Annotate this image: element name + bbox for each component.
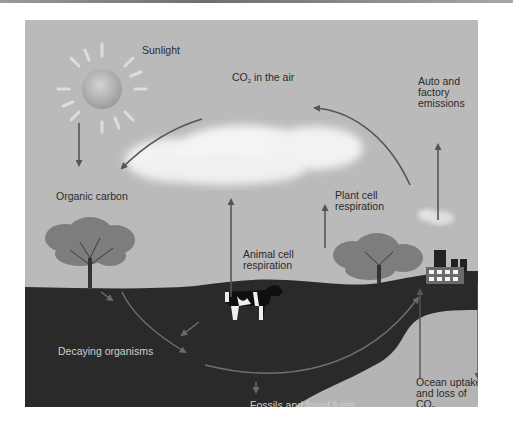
carbon-cycle-diagram: Sunlight CO2 in the air Auto and factory… bbox=[25, 20, 478, 407]
co2-text: CO bbox=[416, 398, 432, 407]
label-fossils: Fossils and fossil fuels bbox=[250, 400, 355, 407]
label-ocean-uptake: Ocean uptake and loss of CO2 bbox=[416, 377, 478, 407]
label-animal-cell-respiration: Animal cell respiration bbox=[243, 249, 294, 271]
label-decaying-organisms: Decaying organisms bbox=[58, 346, 153, 357]
in-air-text: in the air bbox=[251, 71, 294, 83]
label-auto-factory-emissions: Auto and factory emissions bbox=[418, 76, 465, 109]
co2-text: CO bbox=[232, 71, 248, 83]
smoke-icon bbox=[418, 209, 454, 225]
cloud-icon bbox=[125, 125, 363, 185]
label-organic-carbon: Organic carbon bbox=[56, 191, 128, 202]
tree-icon bbox=[333, 233, 423, 283]
label-sunlight: Sunlight bbox=[142, 45, 180, 56]
label-line: respiration bbox=[335, 201, 384, 212]
top-border-strip bbox=[0, 0, 513, 3]
co2-subscript: 2 bbox=[432, 405, 435, 407]
label-line: emissions bbox=[418, 98, 465, 109]
label-line: respiration bbox=[243, 260, 294, 271]
tree-icon bbox=[45, 217, 135, 288]
label-plant-cell-respiration: Plant cell respiration bbox=[335, 190, 384, 212]
label-line: CO2 bbox=[416, 399, 478, 407]
factory-icon bbox=[426, 250, 467, 284]
label-co2-in-air: CO2 in the air bbox=[232, 72, 294, 87]
sun-icon bbox=[58, 44, 146, 132]
